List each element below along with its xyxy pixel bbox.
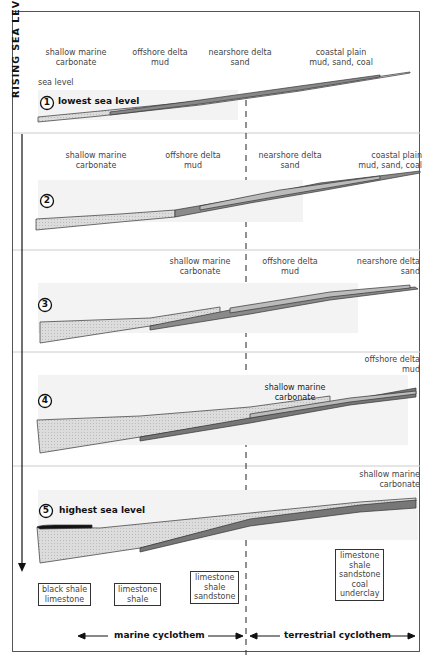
panel-2-number: 2 — [40, 196, 54, 206]
rising-sea-level-arrow — [18, 134, 26, 572]
panel-1-facies-2: offshore deltamud — [125, 48, 195, 67]
panel-4-facies-2: offshore deltamud — [345, 355, 420, 374]
panel-5-number: 5 — [39, 506, 53, 516]
panel-2-facies-3: nearshore deltasand — [250, 151, 330, 170]
sea-level-label: sea level — [38, 78, 74, 88]
panel-1-caption: lowest sea level — [58, 97, 139, 107]
panel-3-facies-3: nearshore deltasand — [340, 257, 420, 276]
terrestrial-cyclothem-label: terrestrial cyclothem — [284, 630, 391, 640]
panel-3-facies-1: shallow marinecarbonate — [160, 257, 240, 276]
panel-1-number: 1 — [40, 98, 54, 108]
panel-1-facies-3: nearshore deltasand — [200, 48, 280, 67]
marine-cyclothem-label: marine cyclothem — [114, 630, 205, 640]
sequence-box-1: black shalelimestone — [38, 583, 91, 606]
sequence-box-2: limestoneshale — [114, 583, 161, 606]
panel-2-facies-4: coastal plainmud, sand, coal — [352, 151, 422, 170]
rising-sea-level-label: RISING SEA LEVEL — [10, 0, 21, 98]
panel-5-caption: highest sea level — [59, 506, 145, 516]
sequence-box-3: limestoneshalesandstone — [190, 571, 239, 604]
panel-4-facies-1: shallow marinecarbonate — [255, 383, 335, 402]
panel-3-number: 3 — [38, 300, 52, 310]
panel-2-facies-1: shallow marinecarbonate — [56, 151, 136, 170]
panel-4-number: 4 — [38, 396, 52, 406]
panel-5-facies-1: shallow marinecarbonate — [340, 470, 420, 489]
panel-2-facies-2: offshore deltamud — [158, 151, 228, 170]
panel-1-facies-1: shallow marinecarbonate — [36, 48, 116, 67]
panel-3-facies-2: offshore deltamud — [255, 257, 325, 276]
sequence-box-4: limestoneshalesandstonecoalunderclay — [335, 549, 384, 601]
panel-1-facies-4: coastal plainmud, sand, coal — [306, 48, 376, 67]
